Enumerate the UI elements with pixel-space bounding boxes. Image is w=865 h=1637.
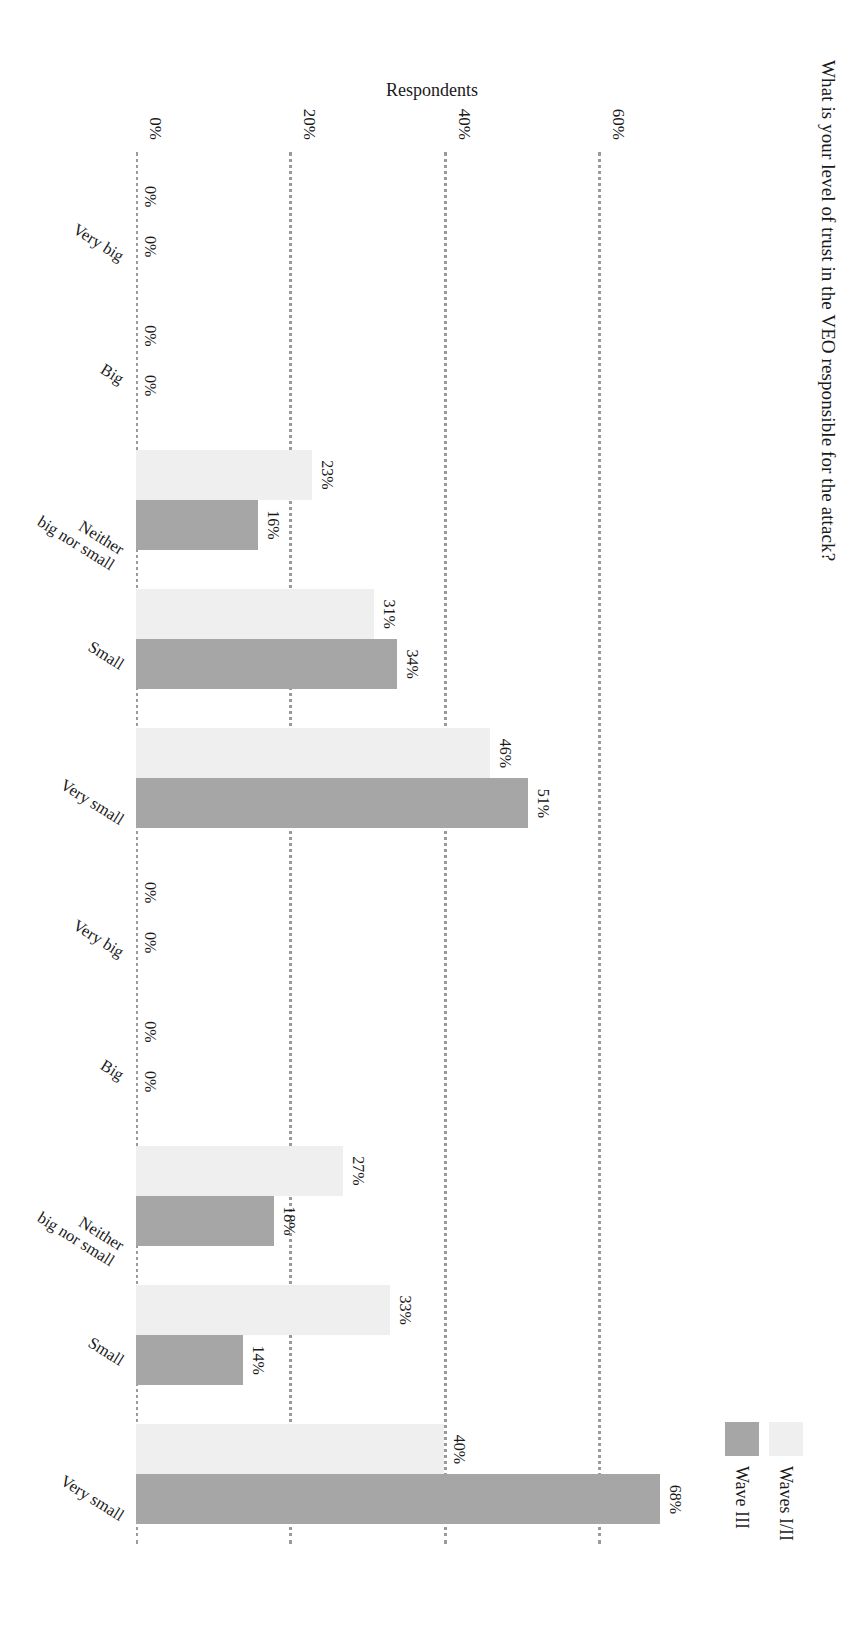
bar-category: 0%0% (135, 152, 675, 291)
x-axis-line (135, 152, 136, 1544)
category-tick-label: Very big (69, 220, 127, 266)
category-label-cell: Big (0, 987, 133, 1126)
category-label-group: Very bigBigNeitherbig nor smallSmallVery… (0, 152, 133, 848)
bar-pair: 40%68% (135, 1420, 675, 1529)
bar[interactable]: 46% (135, 728, 490, 778)
bar-value-label: 31% (380, 600, 398, 629)
bar-value-label: 0% (141, 932, 159, 953)
category-label-cell: Neitherbig nor small (0, 1126, 133, 1265)
bar-pair: 0%0% (135, 167, 675, 276)
bar-pair: 0%0% (135, 1003, 675, 1112)
bar-value-label: 46% (496, 739, 514, 768)
bar-value-label: 23% (318, 460, 336, 489)
bar[interactable]: 33% (135, 1285, 390, 1335)
bar[interactable]: 51% (135, 778, 528, 828)
bar-value-label: 0% (141, 1071, 159, 1092)
legend-item-label: Waves I/II (776, 1466, 797, 1541)
bar-pair: 27%18% (135, 1142, 675, 1251)
y-tick-label: 0% (145, 117, 165, 152)
bar-value-label: 68% (666, 1485, 684, 1514)
bar-pair: 0%0% (135, 307, 675, 416)
bar-value-label: 14% (249, 1346, 267, 1375)
bar-value-label: 40% (450, 1435, 468, 1464)
y-axis-title: Respondents (387, 80, 479, 101)
bar-value-label: 51% (534, 789, 552, 818)
category-tick-label: Very big (69, 916, 127, 962)
y-tick-label: 20% (299, 109, 319, 152)
bar-category: 0%0% (135, 291, 675, 430)
category-tick-labels: Very bigBigNeitherbig nor smallSmallVery… (0, 152, 133, 1544)
category-label-group: Very bigBigNeitherbig nor smallSmallVery… (0, 848, 133, 1544)
bar[interactable]: 34% (135, 639, 397, 689)
bar-pair: 33%14% (135, 1281, 675, 1390)
bar[interactable]: 18% (135, 1196, 274, 1246)
legend-swatch-icon (725, 1422, 759, 1456)
category-label-cell: Small (0, 570, 133, 709)
category-label-cell: Very small (0, 709, 133, 848)
bar-value-label: 0% (141, 1021, 159, 1042)
bar-category: 46%51% (135, 709, 675, 848)
bar-value-label: 0% (141, 375, 159, 396)
bar-value-label: 34% (403, 650, 421, 679)
rotated-figure-canvas: What is your level of trust in the VEO r… (0, 0, 865, 1637)
category-label-cell: Very big (0, 848, 133, 987)
category-tick-label: Very small (57, 1472, 127, 1525)
bar-groups: 0%0%0%0%23%16%31%34%46%51%0%0%0%0%27%18%… (135, 152, 675, 1544)
category-label-cell: Very small (0, 1405, 133, 1544)
bar[interactable]: 23% (135, 450, 312, 500)
y-tick-label: 60% (608, 109, 628, 152)
category-tick-label: Small (85, 638, 127, 674)
bar-chart-figure: What is your level of trust in the VEO r… (0, 0, 865, 1637)
bar[interactable]: 31% (135, 589, 374, 639)
bar-group: 0%0%0%0%27%18%33%14%40%68% (135, 848, 675, 1544)
legend-item[interactable]: Wave III (725, 1422, 759, 1541)
bar-value-label: 0% (141, 325, 159, 346)
bar-value-label: 0% (141, 186, 159, 207)
legend-item[interactable]: Waves I/II (769, 1422, 803, 1541)
bar-category: 23%16% (135, 430, 675, 569)
bar-pair: 23%16% (135, 446, 675, 555)
bar-category: 33%14% (135, 1266, 675, 1405)
bar[interactable]: 14% (135, 1335, 243, 1385)
legend-item-label: Wave III (732, 1466, 753, 1529)
bar-category: 27%18% (135, 1126, 675, 1265)
bar[interactable]: 27% (135, 1146, 343, 1196)
category-tick-label: Big (97, 1056, 127, 1084)
category-tick-label: Neitherbig nor small (34, 1193, 127, 1270)
bar-category: 40%68% (135, 1405, 675, 1544)
category-label-cell: Small (0, 1266, 133, 1405)
bar[interactable]: 68% (135, 1474, 660, 1524)
bar-category: 0%0% (135, 848, 675, 987)
category-tick-label: Neitherbig nor small (34, 497, 127, 574)
y-tick-label: 40% (454, 109, 474, 152)
bar-value-label: 33% (396, 1296, 414, 1325)
bar-value-label: 18% (280, 1206, 298, 1235)
category-label-cell: Neitherbig nor small (0, 430, 133, 569)
category-label-cell: Big (0, 291, 133, 430)
bar-value-label: 27% (349, 1156, 367, 1185)
legend-swatch-icon (769, 1422, 803, 1456)
bar-pair: 0%0% (135, 863, 675, 972)
bar-value-label: 16% (264, 510, 282, 539)
bar-group: 0%0%0%0%23%16%31%34%46%51% (135, 152, 675, 848)
bar[interactable]: 16% (135, 500, 258, 550)
bar-value-label: 0% (141, 236, 159, 257)
bar-category: 31%34% (135, 570, 675, 709)
category-label-cell: Very big (0, 152, 133, 291)
category-tick-label: Very small (57, 776, 127, 829)
bar-pair: 46%51% (135, 724, 675, 833)
bar-pair: 31%34% (135, 585, 675, 694)
bar[interactable]: 40% (135, 1424, 444, 1474)
chart-title: What is your level of trust in the VEO r… (817, 60, 839, 561)
category-tick-label: Small (85, 1334, 127, 1370)
bar-category: 0%0% (135, 987, 675, 1126)
bar-value-label: 0% (141, 882, 159, 903)
plot-area: 0%20%40%60% 0%0%0%0%23%16%31%34%46%51%0%… (135, 152, 675, 1544)
chart-legend: Waves I/IIWave III (725, 1422, 803, 1541)
category-tick-label: Big (97, 360, 127, 388)
